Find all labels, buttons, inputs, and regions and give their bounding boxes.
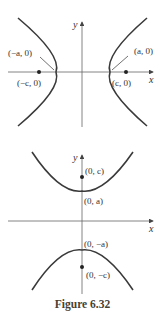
right-focus-label: (c, 0) [112, 78, 131, 88]
left-vertex-leader [40, 57, 54, 70]
right-vertex-leader [112, 56, 128, 70]
right-vertex-label: (a, 0) [134, 46, 153, 56]
bottom-vertex-label: (0, −a) [84, 239, 108, 249]
top-focus-label: (0, c) [85, 166, 104, 176]
top-y-label: y [72, 19, 78, 30]
right-focus-dot [124, 70, 128, 74]
figure-caption: Figure 6.32 [0, 298, 165, 310]
bottom-panel: x y (0, c) (0, a) (0, −a) (0, −c) [8, 152, 154, 294]
upper-branch-curve [32, 152, 133, 191]
bottom-focus-label: (0, −c) [86, 270, 110, 280]
bottom-x-label: x [148, 223, 154, 234]
bottom-y-label: y [72, 152, 78, 163]
top-focus-dot [80, 175, 84, 179]
left-vertex-label: (−a, 0) [8, 48, 32, 58]
lower-branch-curve [32, 250, 133, 290]
top-vertex-label: (0, a) [84, 196, 103, 206]
left-focus-dot [37, 70, 41, 74]
left-focus-label: (−c, 0) [17, 78, 41, 88]
top-panel: x y (−a, 0) (a, 0) (−c, 0) (c, 0) [8, 18, 154, 127]
bottom-focus-dot [80, 265, 84, 269]
top-x-label: x [148, 74, 154, 85]
hyperbola-figure: x y (−a, 0) (a, 0) (−c, 0) (c, 0) x y (0… [0, 0, 165, 317]
